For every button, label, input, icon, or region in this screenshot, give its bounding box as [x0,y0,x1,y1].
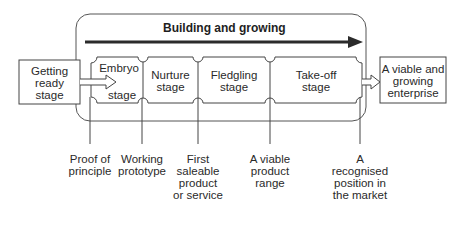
hollow-arrow-out-icon [362,75,380,89]
stage-embryo-sub: stage [98,89,146,101]
stage-nurture: Nurture stage [143,69,198,93]
stage-take-off: Take-off stage [270,69,362,93]
milestone-first-saleable-product: First saleable product or service [170,153,226,201]
stage-fledgling: Fledgling stage [198,69,270,93]
diagram-title: Building and growing [163,21,286,35]
getting-ready-label: Getting ready stage [19,65,80,101]
milestone-working-prototype: Working prototype [114,153,170,177]
milestone-recognised-position: A recognised position in the market [330,153,390,201]
progress-arrow-icon [85,36,363,48]
hollow-arrow-in-icon [80,75,116,89]
milestone-viable-product-range: A viable product range [244,153,296,189]
viable-enterprise-label: A viable and growing enterprise [380,63,446,99]
stage-embryo: Embryo [95,62,143,74]
milestone-proof-of-principle: Proof of principle [64,153,116,177]
